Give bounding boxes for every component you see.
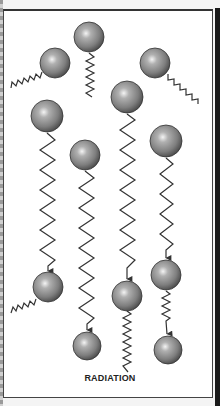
particle-col1-lower <box>33 272 63 302</box>
wave-col3 <box>120 114 135 279</box>
particle-col4-lower <box>154 336 182 364</box>
wave-col1-emit <box>11 299 36 313</box>
particle-col3-lower <box>112 281 142 311</box>
wave-col2 <box>79 171 94 330</box>
particle-col2-upper <box>70 140 100 170</box>
particle-top-left <box>40 48 70 78</box>
particle-col4-mid <box>151 260 181 290</box>
radiation-diagram <box>0 0 220 406</box>
particle-top-right <box>140 48 170 78</box>
wave-col4-lower <box>162 291 170 334</box>
particles <box>31 22 182 364</box>
wave-top-center <box>86 53 94 97</box>
particle-col2-lower <box>73 332 101 360</box>
radiation-waves <box>11 53 198 372</box>
particle-col4-upper <box>150 125 182 157</box>
wave-top-right <box>168 74 198 104</box>
particle-col1-upper <box>31 100 63 132</box>
wave-col1 <box>40 133 55 271</box>
particle-col3-upper <box>111 81 143 113</box>
diagram-label: RADIATION <box>0 373 220 383</box>
wave-top-left <box>11 72 42 88</box>
wave-col3-emit <box>123 311 131 372</box>
wave-col4 <box>160 158 173 258</box>
particle-top-center <box>74 22 104 52</box>
